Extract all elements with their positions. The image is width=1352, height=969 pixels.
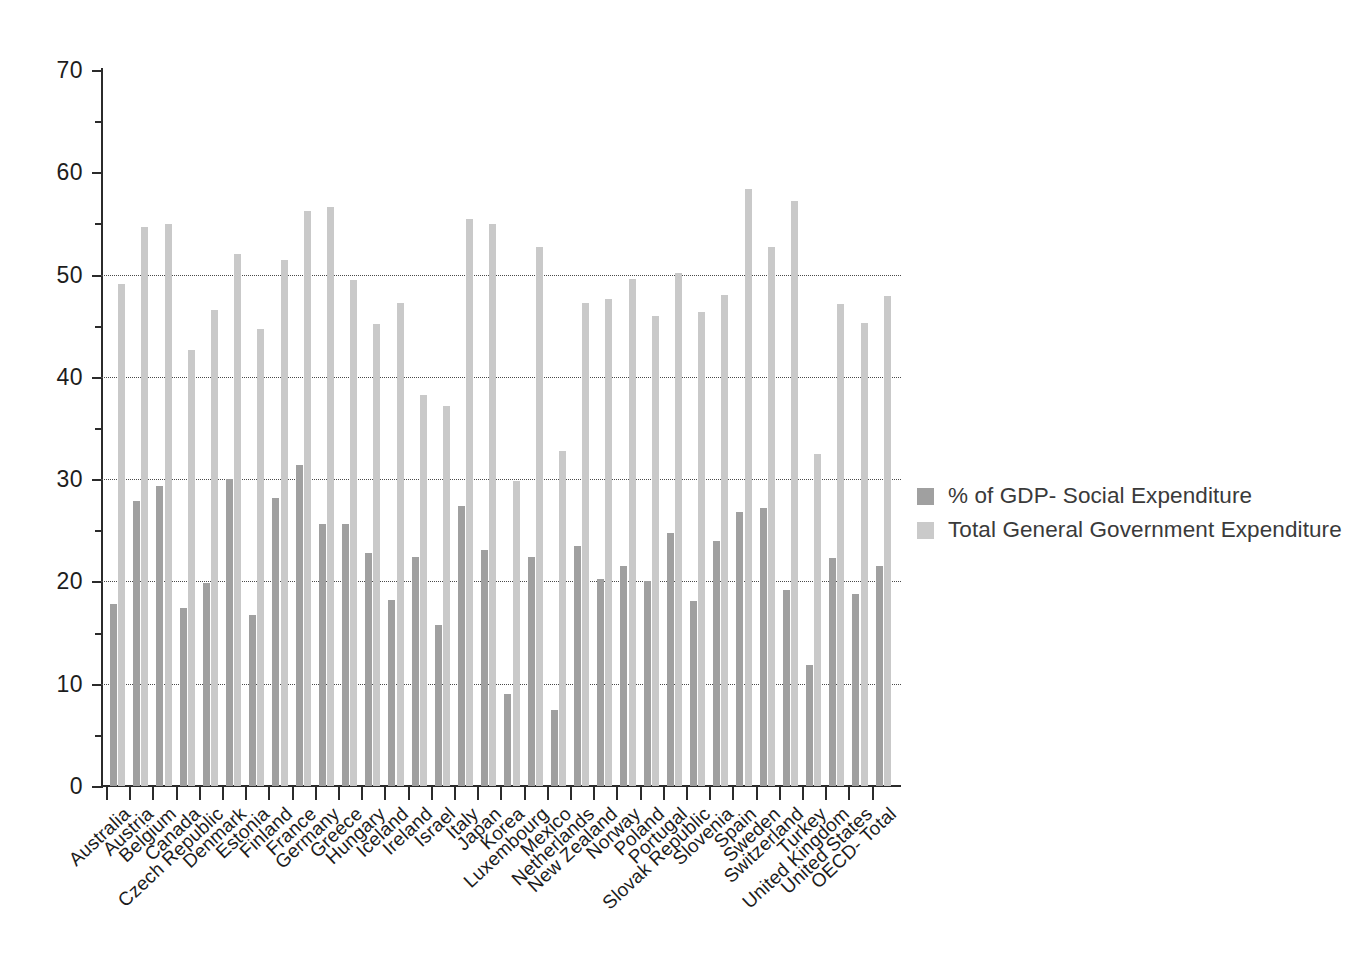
- y-tick-0: 0: [92, 786, 101, 788]
- legend-label: Total General Government Expenditure: [948, 517, 1342, 543]
- bar: [373, 324, 380, 786]
- bar: [698, 312, 705, 786]
- x-tick: [872, 787, 874, 800]
- bar: [257, 329, 264, 786]
- x-tick: [477, 787, 479, 800]
- bar: [760, 508, 767, 786]
- x-tick: [431, 787, 433, 800]
- bar: [281, 260, 288, 786]
- x-tick: [570, 787, 572, 800]
- y-tick-label-10: 10: [57, 670, 83, 697]
- bar: [551, 710, 558, 786]
- bar-chart: 010203040506070 AustraliaAustriaBelgiumC…: [0, 0, 1352, 969]
- x-tick: [338, 787, 340, 800]
- y-tick-label-50: 50: [57, 261, 83, 288]
- y-tick-50: 50: [92, 275, 101, 277]
- bar: [249, 615, 256, 786]
- bar: [814, 454, 821, 786]
- x-tick: [176, 787, 178, 800]
- x-tick: [593, 787, 595, 800]
- bar: [629, 279, 636, 786]
- bar: [528, 557, 535, 786]
- bar: [806, 665, 813, 786]
- bar: [481, 550, 488, 786]
- bar: [829, 558, 836, 786]
- bar: [412, 557, 419, 786]
- y-tick-40: 40: [92, 377, 101, 379]
- x-tick: [292, 787, 294, 800]
- bar: [736, 512, 743, 786]
- x-tick: [315, 787, 317, 800]
- x-tick: [779, 787, 781, 800]
- y-tick-10: 10: [92, 684, 101, 686]
- bar: [513, 481, 520, 786]
- x-tick: [524, 787, 526, 800]
- y-tick-label-70: 70: [57, 57, 83, 84]
- bar: [397, 303, 404, 786]
- plot-area: 010203040506070: [101, 70, 901, 786]
- bar: [768, 247, 775, 786]
- x-tick: [616, 787, 618, 800]
- x-tick: [384, 787, 386, 800]
- bar: [342, 524, 349, 786]
- x-tick: [640, 787, 642, 800]
- x-tick: [732, 787, 734, 800]
- bar: [203, 583, 210, 786]
- x-tick: [268, 787, 270, 800]
- bar: [165, 224, 172, 786]
- legend-item[interactable]: Total General Government Expenditure: [917, 515, 1342, 545]
- x-tick: [686, 787, 688, 800]
- y-tick-label-60: 60: [57, 159, 83, 186]
- bar: [156, 486, 163, 786]
- x-tick: [663, 787, 665, 800]
- bar: [783, 590, 790, 786]
- bar: [466, 219, 473, 786]
- y-tick-label-30: 30: [57, 466, 83, 493]
- bar: [791, 201, 798, 786]
- x-tick: [129, 787, 131, 800]
- bar: [420, 395, 427, 786]
- y-tick-30: 30: [92, 479, 101, 481]
- bar: [690, 601, 697, 786]
- legend-swatch-icon: [917, 522, 934, 539]
- bar: [745, 189, 752, 786]
- bar: [713, 541, 720, 786]
- bar: [296, 465, 303, 786]
- bar: [458, 506, 465, 786]
- bar: [876, 566, 883, 786]
- bar: [536, 247, 543, 786]
- legend-item[interactable]: % of GDP- Social Expenditure: [917, 481, 1342, 511]
- bar: [388, 600, 395, 786]
- x-tick: [222, 787, 224, 800]
- bar: [304, 211, 311, 786]
- bar: [272, 498, 279, 786]
- bar: [605, 299, 612, 786]
- bar: [110, 604, 117, 786]
- legend-label: % of GDP- Social Expenditure: [948, 483, 1252, 509]
- bar: [327, 207, 334, 786]
- bars-layer: [101, 70, 901, 786]
- bar: [652, 316, 659, 787]
- y-tick-70: 70: [92, 70, 101, 72]
- bar: [319, 524, 326, 786]
- x-tick: [408, 787, 410, 800]
- x-tick: [802, 787, 804, 800]
- x-tick: [825, 787, 827, 800]
- bar: [582, 303, 589, 786]
- bar: [350, 280, 357, 786]
- bar: [721, 295, 728, 786]
- y-tick-label-40: 40: [57, 363, 83, 390]
- bar: [188, 350, 195, 786]
- legend-swatch-icon: [917, 488, 934, 505]
- bar: [644, 581, 651, 786]
- x-tick: [106, 787, 108, 800]
- x-tick: [199, 787, 201, 800]
- y-tick-60: 60: [92, 172, 101, 174]
- bar: [489, 224, 496, 786]
- bar: [667, 533, 674, 786]
- bar: [837, 304, 844, 786]
- x-tick: [500, 787, 502, 800]
- x-tick: [756, 787, 758, 800]
- bar: [226, 479, 233, 786]
- bar: [559, 451, 566, 786]
